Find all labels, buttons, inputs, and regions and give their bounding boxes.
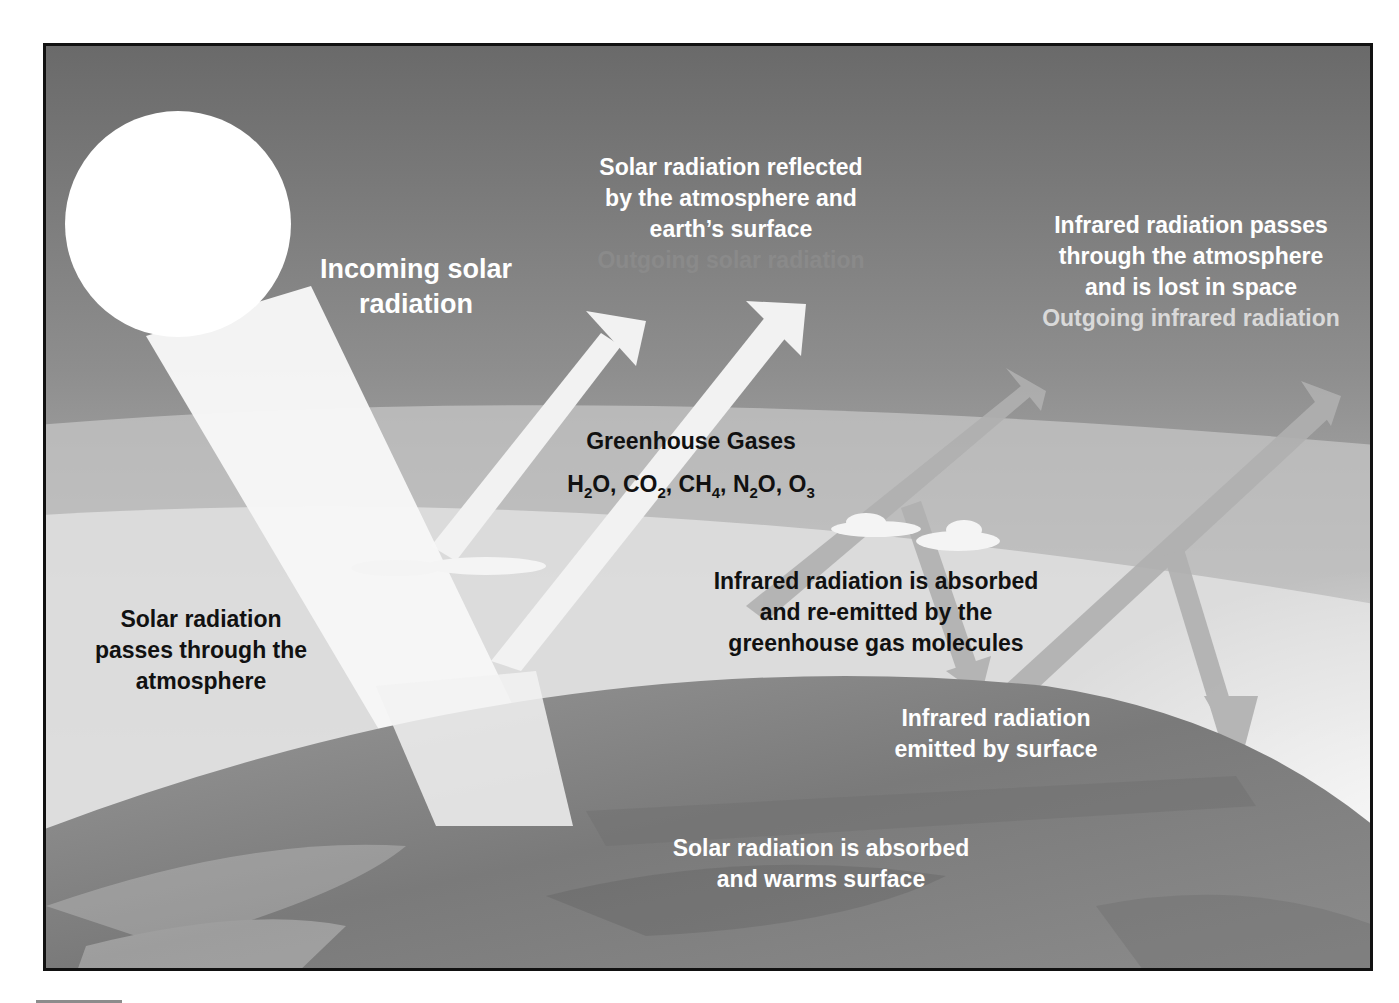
label-absorbed-warms: Solar radiation is absorbed and warms su… bbox=[646, 833, 996, 895]
greenhouse-gases-formulas: H2O, CO2, CH4, N2O, O3 bbox=[546, 469, 836, 500]
label-absorbed-reemitted: Infrared radiation is absorbed and re-em… bbox=[691, 566, 1061, 659]
label-line: Infrared radiation bbox=[866, 703, 1126, 734]
label-line: passes through the bbox=[76, 635, 326, 666]
label-line: atmosphere bbox=[76, 666, 326, 697]
label-incoming-solar: Incoming solar radiation bbox=[296, 252, 536, 322]
formula-n2o: N2O bbox=[733, 471, 776, 497]
formula-h2o: H2O bbox=[567, 471, 610, 497]
label-line: earth’s surface bbox=[576, 214, 886, 245]
formula-o3: O3 bbox=[789, 471, 815, 497]
label-passes-through: Solar radiation passes through the atmos… bbox=[76, 604, 326, 697]
label-infrared-lost: Infrared radiation passes through the at… bbox=[1021, 210, 1361, 334]
label-line: greenhouse gas molecules bbox=[691, 628, 1061, 659]
label-line: Incoming solar bbox=[296, 252, 536, 287]
greenhouse-gases-title: Greenhouse Gases bbox=[546, 426, 836, 457]
label-greenhouse-gases: Greenhouse Gases H2O, CO2, CH4, N2O, O3 bbox=[546, 426, 836, 500]
label-line: Infrared radiation is absorbed bbox=[691, 566, 1061, 597]
formula-ch4: CH4 bbox=[679, 471, 721, 497]
label-line: through the atmosphere bbox=[1021, 241, 1361, 272]
label-line: and re-emitted by the bbox=[691, 597, 1061, 628]
label-reflected-solar: Solar radiation reflected by the atmosph… bbox=[576, 152, 886, 276]
label-line: Solar radiation bbox=[76, 604, 326, 635]
label-line: Solar radiation reflected bbox=[576, 152, 886, 183]
label-subtitle: Outgoing infrared radiation bbox=[1021, 303, 1361, 334]
label-line: and warms surface bbox=[646, 864, 996, 895]
formula-co2: CO2 bbox=[623, 471, 666, 497]
label-line: emitted by surface bbox=[866, 734, 1126, 765]
label-line: radiation bbox=[296, 287, 536, 322]
greenhouse-diagram: Incoming solar radiation Solar radiation… bbox=[43, 43, 1373, 971]
label-emitted-by-surface: Infrared radiation emitted by surface bbox=[866, 703, 1126, 765]
label-line: by the atmosphere and bbox=[576, 183, 886, 214]
label-line: Solar radiation is absorbed bbox=[646, 833, 996, 864]
sun bbox=[65, 111, 291, 337]
label-line: Infrared radiation passes bbox=[1021, 210, 1361, 241]
label-subtitle: Outgoing solar radiation bbox=[576, 245, 886, 276]
label-line: and is lost in space bbox=[1021, 272, 1361, 303]
